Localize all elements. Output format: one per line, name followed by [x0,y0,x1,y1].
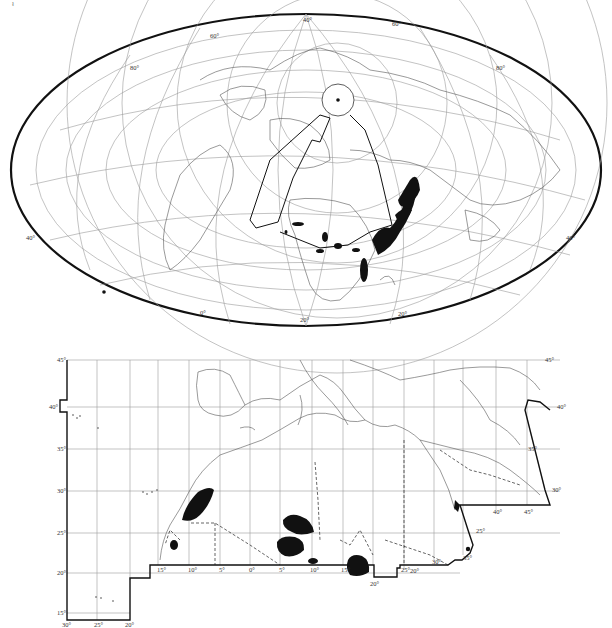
regional-labels: 45° 40° 35° 30° 25° 20° 15° 45° 40° 35° … [49,356,567,628]
svg-text:45°: 45° [57,356,67,363]
svg-text:20°: 20° [370,580,380,587]
svg-text:30°: 30° [57,487,67,494]
svg-text:10°: 10° [310,566,320,573]
svg-text:20°: 20° [398,310,408,317]
svg-text:15°: 15° [341,566,351,573]
svg-text:30°: 30° [62,621,72,628]
svg-text:25°: 25° [401,566,411,573]
svg-text:40°: 40° [26,234,36,241]
world-map: 40° 60° 80° 80° 60° 40° 20° 0° 20° 40° [11,0,607,373]
svg-text:80°: 80° [496,64,506,71]
occurrence-areas-regional [170,488,470,576]
south-point [102,290,106,294]
svg-text:25°: 25° [57,529,67,536]
regional-grid [67,360,560,620]
svg-text:25°: 25° [476,527,486,534]
svg-text:0°: 0° [200,309,206,316]
svg-text:5°: 5° [219,566,225,573]
svg-text:25°: 25° [94,621,104,628]
map-outline [11,14,601,326]
regional-map: 45° 40° 35° 30° 25° 20° 15° 45° 40° 35° … [49,356,567,628]
islands [72,414,158,602]
svg-text:45°: 45° [524,508,534,515]
svg-text:20°: 20° [57,569,67,576]
svg-text:60°: 60° [210,32,220,39]
svg-text:10°: 10° [188,566,198,573]
svg-text:20°: 20° [125,621,135,628]
svg-text:30°: 30° [552,486,562,493]
svg-text:15°: 15° [157,566,167,573]
pole-point [336,98,340,102]
svg-text:35°: 35° [528,445,538,452]
svg-text:80°: 80° [130,64,140,71]
svg-text:0°: 0° [249,566,255,573]
svg-text:60°: 60° [392,20,402,27]
figure-canvas: 40° 60° 80° 80° 60° 40° 20° 0° 20° 40° [0,0,612,628]
svg-text:40°: 40° [557,403,567,410]
svg-text:40°: 40° [566,234,576,241]
svg-text:45°: 45° [545,356,555,363]
svg-text:35°: 35° [57,445,67,452]
svg-text:40°: 40° [303,16,313,23]
svg-text:20°: 20° [300,316,310,323]
svg-text:40°: 40° [493,508,503,515]
svg-text:30°: 30° [432,558,442,565]
political-borders [165,440,520,565]
svg-text:35°: 35° [463,554,473,561]
svg-text:15°: 15° [57,609,67,616]
svg-text:20°: 20° [410,567,420,574]
svg-text:40°: 40° [49,403,59,410]
svg-text:5°: 5° [279,566,285,573]
